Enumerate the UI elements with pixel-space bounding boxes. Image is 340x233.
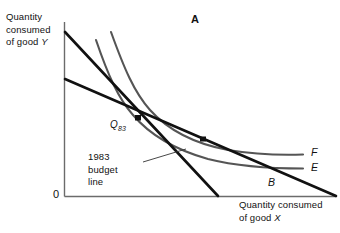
budget-line-annotation-line3: line — [88, 176, 103, 187]
y-axis-label-line1: Quantity — [6, 11, 42, 22]
x-axis-label: Quantity consumedof good X — [239, 199, 335, 224]
y-axis-label-line3: of good — [6, 36, 41, 47]
origin-label: 0 — [53, 188, 59, 201]
indifference-curve-figure: A Quantityconsumedof good Y Quantity con… — [0, 0, 340, 233]
equilibrium-label-subscript: 83 — [118, 125, 126, 132]
indifference-curve-f — [111, 32, 303, 155]
tangency-marker-q83 — [135, 115, 141, 121]
budget-line-annotation-line2: budget — [88, 164, 118, 175]
budget-line-annotation-line1: 1983 — [88, 151, 110, 162]
x-axis-variable: X — [274, 212, 280, 223]
equilibrium-label-base: Q — [110, 119, 118, 130]
indifference-curve-e — [96, 40, 303, 169]
curve-label-f: F — [311, 146, 318, 159]
y-axis-label: Quantityconsumedof good Y — [6, 11, 78, 49]
y-axis-variable: Y — [41, 36, 47, 47]
curve-label-e: E — [311, 161, 318, 174]
y-axis-label-line2: consumed — [6, 24, 51, 35]
equilibrium-label-q83: Q83 — [110, 119, 126, 136]
x-axis-label-line2: of good — [239, 212, 274, 223]
x-axis-label-line1: Quantity consumed — [239, 199, 323, 210]
panel-letter: A — [191, 13, 199, 26]
budget-line-annotation: 1983budgetline — [88, 151, 148, 189]
curve-label-b: B — [268, 176, 275, 189]
tangency-marker-f — [200, 137, 206, 142]
